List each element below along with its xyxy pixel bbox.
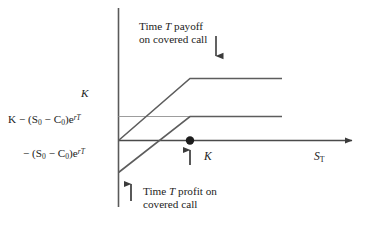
y-axis-label-K-minus-cost: K − (S0 − C0)erT — [8, 113, 81, 128]
y-axis-label-K: K — [81, 87, 88, 100]
payoff-curve — [119, 79, 283, 141]
profit-annotation-line1: Time T profit on — [143, 185, 217, 197]
x-axis-label-K: K — [204, 150, 212, 164]
strike-dot-marker — [186, 136, 194, 144]
payoff-annotation-line2: on covered call — [139, 33, 207, 45]
x-axis-name-label: ST — [314, 150, 325, 164]
y-axis-label-negative-cost: − (S0 − C0)erT — [23, 147, 85, 162]
profit-annotation-line2: covered call — [143, 198, 197, 210]
profit-annotation-label: Time T profit on covered call — [143, 185, 217, 211]
payoff-annotation-label: Time T payoff on covered call — [139, 20, 207, 46]
profit-curve — [119, 117, 283, 173]
covered-call-payoff-diagram: Time T payoff on covered call Time T pro… — [0, 0, 376, 227]
payoff-annotation-line1: Time T payoff — [139, 20, 203, 32]
